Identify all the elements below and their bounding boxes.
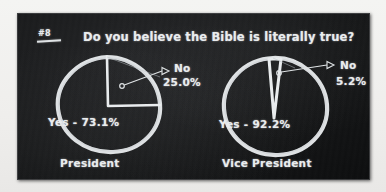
vice-president-no-value: 5.2% — [336, 75, 366, 87]
slide-number-label: #8 — [38, 29, 51, 38]
president-pie-chart — [27, 41, 187, 161]
president-stray-chalk-mark — [107, 57, 160, 77]
president-no-value: 25.0% — [163, 76, 201, 88]
president-leader-anchor-dot — [120, 84, 125, 89]
vice-president-yes-label: Yes - 92.2% — [219, 118, 290, 130]
president-caption: President — [60, 157, 120, 169]
president-yes-label: Yes - 73.1% — [48, 116, 119, 128]
page-title: Do you believe the Bible is literally tr… — [83, 30, 354, 44]
president-no-label: No — [174, 62, 191, 74]
vice-president-pie-chart — [199, 41, 359, 161]
vice-president-leader-arrowhead — [327, 62, 334, 69]
vice-president-no-wedge — [269, 59, 281, 118]
screenshot-root: No 25.0% Yes - 73.1% President No 5.2% Y… — [0, 0, 386, 192]
vice-president-caption: Vice President — [222, 157, 312, 169]
vice-president-no-label: No — [340, 59, 357, 71]
president-leader-arrowhead — [162, 68, 169, 75]
chalkboard-panel: No 25.0% Yes - 73.1% President No 5.2% Y… — [17, 13, 370, 180]
